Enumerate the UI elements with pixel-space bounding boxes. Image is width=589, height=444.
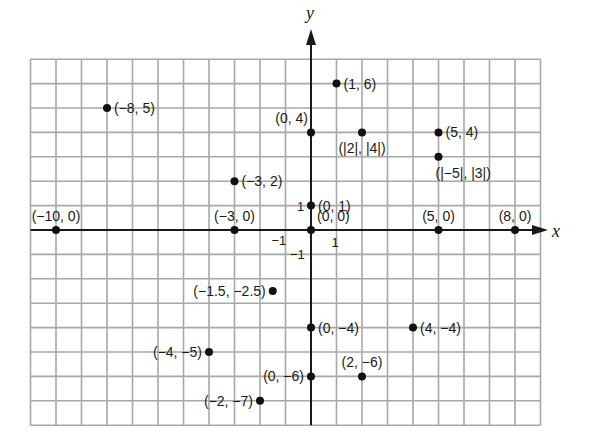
data-point-label: (5, 4) bbox=[446, 124, 479, 140]
data-point-marker bbox=[511, 226, 519, 234]
y-axis-arrow-icon bbox=[306, 29, 316, 45]
data-point-marker bbox=[103, 104, 111, 112]
tick-label-y-negative: −1 bbox=[290, 247, 305, 262]
data-point-label: (−3, 0) bbox=[214, 208, 255, 224]
data-point-marker bbox=[307, 324, 315, 332]
data-point-marker bbox=[205, 348, 213, 356]
data-point-label: (8, 0) bbox=[499, 208, 532, 224]
tick-label-x-negative: −1 bbox=[272, 233, 287, 248]
data-point-label: (−10, 0) bbox=[32, 208, 81, 224]
data-point-label: (0, −6) bbox=[263, 368, 304, 384]
tick-label-x-positive: 1 bbox=[332, 235, 339, 250]
data-point-marker bbox=[269, 287, 277, 295]
data-point-marker bbox=[52, 226, 60, 234]
data-point-label: (−8, 5) bbox=[114, 100, 155, 116]
data-point-label: (0, −4) bbox=[318, 320, 359, 336]
data-point-label: (|2|, |4|) bbox=[338, 140, 385, 156]
data-point-label: (|−5|, |3|) bbox=[436, 165, 491, 181]
data-point-marker bbox=[231, 226, 239, 234]
axes: xy bbox=[31, 3, 561, 425]
data-point-label: (−1.5, −2.5) bbox=[193, 283, 265, 299]
tick-label-y-positive: 1 bbox=[297, 199, 304, 214]
data-point-marker bbox=[435, 128, 443, 136]
data-point-marker bbox=[435, 153, 443, 161]
data-point-marker bbox=[307, 226, 315, 234]
data-point-marker bbox=[358, 372, 366, 380]
x-axis-label: x bbox=[551, 221, 560, 241]
data-point-marker bbox=[307, 372, 315, 380]
data-point-marker bbox=[409, 324, 417, 332]
data-point-label: (1, 6) bbox=[344, 76, 377, 92]
data-point-marker bbox=[333, 80, 341, 88]
data-point-label: (5, 0) bbox=[422, 208, 455, 224]
data-point-label: (0, 4) bbox=[275, 110, 308, 126]
data-point-label: (0, 0) bbox=[317, 208, 350, 224]
data-point-label: (−3, 2) bbox=[242, 173, 283, 189]
data-point-label: (2, −6) bbox=[342, 354, 383, 370]
data-point-marker bbox=[358, 128, 366, 136]
data-point-marker bbox=[231, 177, 239, 185]
data-point-marker bbox=[256, 397, 264, 405]
data-point-label: (−4, −5) bbox=[153, 344, 202, 360]
data-point-label: (4, −4) bbox=[420, 320, 461, 336]
data-point-marker bbox=[307, 128, 315, 136]
y-axis-label: y bbox=[304, 3, 314, 23]
coordinate-plane: xy 1−11−1 (−8, 5)(1, 6)(0, 4)(|2|, |4|)(… bbox=[0, 0, 589, 444]
data-point-label: (−2, −7) bbox=[204, 393, 253, 409]
data-point-marker bbox=[307, 202, 315, 210]
data-point-marker bbox=[435, 226, 443, 234]
